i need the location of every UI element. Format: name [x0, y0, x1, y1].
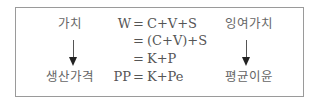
surplus-value-label: 잉여가치	[225, 17, 273, 31]
equation-rhs-4: K+Pe	[147, 70, 183, 84]
equation-lhs-w: W	[111, 17, 131, 31]
equation-rhs-1: C+V+S	[147, 17, 197, 31]
equation-lhs-pp: PP	[109, 70, 131, 84]
equation-eq-2: =	[133, 34, 144, 48]
production-price-label: 생산가격	[46, 70, 94, 84]
average-profit-label: 평균이윤	[225, 70, 273, 84]
equation-eq-3: =	[133, 52, 144, 66]
equation-eq-4: =	[133, 70, 144, 84]
equation-rhs-3: K+P	[147, 52, 176, 66]
down-arrow-icon	[69, 57, 77, 66]
down-arrow-icon	[242, 57, 250, 66]
equation-rhs-2: (C+V)+S	[147, 34, 207, 48]
equation-eq-1: =	[133, 17, 144, 31]
value-label: 가치	[58, 17, 82, 31]
